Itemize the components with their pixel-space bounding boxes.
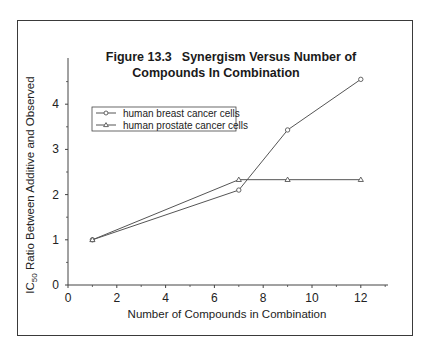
x-tick-label: 0 [65,291,72,305]
circle-marker-icon [237,188,241,192]
series-line [92,79,360,239]
x-axis-label: Number of Compounds in Combination [128,308,327,320]
legend-label-breast: human breast cancer cells [123,108,240,119]
y-tick-label: 2 [52,188,59,202]
triangle-marker-icon [236,177,241,181]
triangle-marker-icon [358,177,363,181]
x-tick-label: 6 [211,291,218,305]
y-tick-label: 3 [52,142,59,156]
triangle-marker-icon [285,177,290,181]
circle-marker-icon [359,77,363,81]
x-ticks: 024681012 [65,285,386,305]
circle-marker-icon [285,128,289,132]
y-tick-label: 4 [52,97,59,111]
y-ticks: 01234 [52,82,68,292]
x-tick-label: 10 [305,291,319,305]
data-series [90,77,364,242]
series-line [92,180,360,240]
circle-marker-icon [104,111,108,115]
y-tick-label: 1 [52,233,59,247]
x-tick-label: 4 [162,291,169,305]
plot-area: 01234 024681012 Number of Compounds in C… [0,0,432,351]
y-axis-label: IC50 Ratio Between Additive and Observed [24,76,39,293]
legend: human breast cancer cells human prostate… [92,107,248,131]
x-tick-label: 8 [260,291,267,305]
legend-label-prostate: human prostate cancer cells [123,120,248,131]
triangle-marker-icon [90,237,95,241]
y-tick-label: 0 [52,278,59,292]
x-tick-label: 2 [113,291,120,305]
x-tick-label: 12 [354,291,368,305]
